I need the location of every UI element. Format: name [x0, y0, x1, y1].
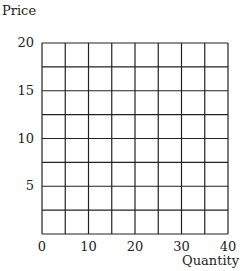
- x-tick-label: 40: [220, 240, 237, 253]
- y-tick-label: 20: [17, 36, 34, 49]
- y-axis-label: Price: [2, 4, 36, 17]
- x-tick-label: 10: [80, 240, 97, 253]
- y-tick-label: 10: [17, 132, 34, 145]
- y-tick-label: 15: [17, 84, 34, 97]
- x-tick-label: 30: [173, 240, 190, 253]
- x-tick-label: 0: [38, 240, 46, 253]
- x-axis-label: Quantity: [182, 254, 239, 267]
- x-tick-label: 20: [127, 240, 144, 253]
- price-quantity-grid-chart: [0, 0, 249, 271]
- y-tick-label: 5: [26, 179, 34, 192]
